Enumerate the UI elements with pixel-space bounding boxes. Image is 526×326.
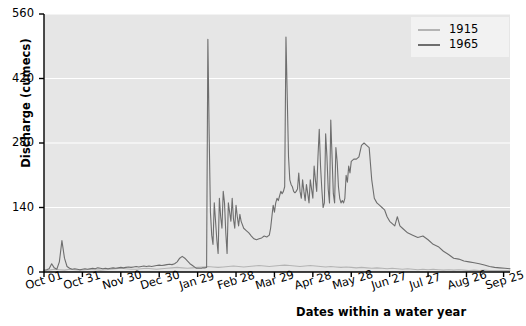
x-axis-tick-label: Feb 28 — [216, 270, 256, 292]
legend-item-1965: 1965 — [418, 37, 503, 52]
x-axis-tick-label: Sep 25 — [484, 269, 526, 292]
x-axis-tick-label: Apr 28 — [293, 270, 333, 292]
legend-label-1965: 1965 — [449, 39, 478, 51]
x-axis-tick-label: Jul 27 — [408, 272, 442, 292]
x-axis-tick-label: Oct 31 — [62, 270, 102, 292]
legend-label-1915: 1915 — [449, 24, 478, 36]
y-axis-title: Discharge (cumecs) — [19, 13, 33, 193]
discharge-hydrograph-chart: 0140280420560 Oct 01Oct 31Nov 30Dec 30Ja… — [0, 0, 526, 326]
x-axis-tick-label: Aug 26 — [446, 269, 488, 292]
x-axis-tick-label: May 28 — [331, 269, 375, 292]
x-axis-tick-label: Dec 30 — [139, 269, 181, 292]
x-axis-title: Dates within a water year — [296, 305, 466, 319]
chart-legend: 1915 1965 — [411, 17, 509, 57]
x-axis-tick-label: Mar 29 — [254, 269, 296, 292]
legend-swatch-1965 — [418, 44, 440, 46]
x-axis-tick-label: Jun 27 — [370, 270, 408, 292]
legend-swatch-1915 — [418, 29, 440, 31]
x-axis-tick-label: Nov 30 — [101, 269, 143, 292]
legend-item-1915: 1915 — [418, 22, 503, 37]
x-axis-tick-label: Oct 01 — [24, 270, 64, 292]
x-axis-tick-label: Jan 29 — [178, 270, 216, 292]
